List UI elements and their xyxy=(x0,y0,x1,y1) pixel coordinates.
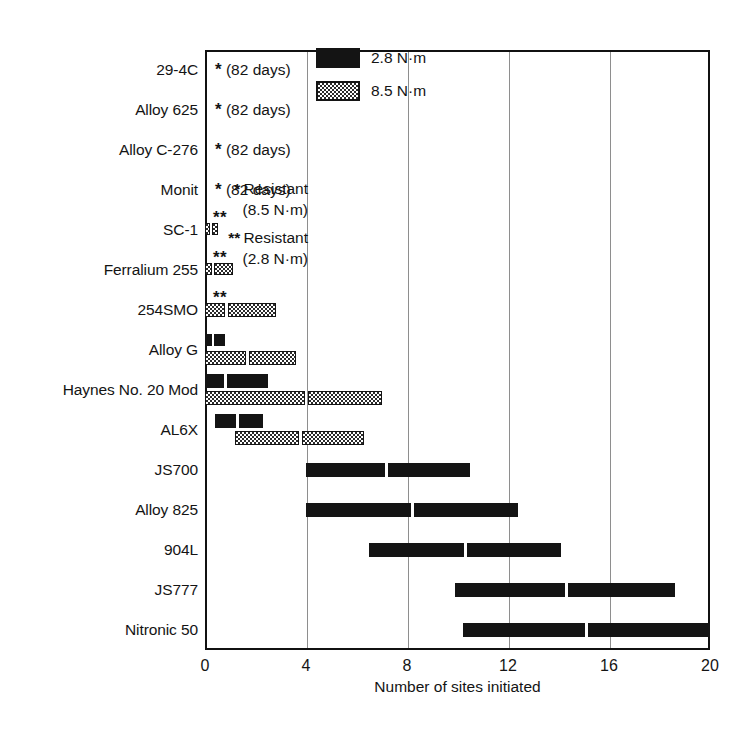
y-axis-label: Alloy 625 xyxy=(0,102,198,118)
legend-swatch-stippled xyxy=(316,81,360,101)
bar-segment-upper xyxy=(414,503,519,517)
row-note-exposure: * (82 days) xyxy=(215,102,291,118)
chart-root: 29-4CAlloy 625Alloy C-276MonitSC-1Ferral… xyxy=(0,0,744,735)
y-axis-label: Alloy 825 xyxy=(0,502,198,518)
legend-item: 8.5 N·m xyxy=(316,81,426,101)
y-axis-label: Alloy G xyxy=(0,342,198,358)
legend-swatch-solid-black xyxy=(316,48,360,68)
bars-layer: * (82 days)* (82 days)* (82 days)* (82 d… xyxy=(205,50,710,650)
bar-segment-upper xyxy=(227,374,268,388)
resistant-star-icon: * xyxy=(234,178,240,199)
x-axis-title: Number of sites initiated xyxy=(205,678,710,696)
bar-segment-lower xyxy=(205,351,246,365)
bar-segment-lower xyxy=(205,374,224,388)
row-note-star: ** xyxy=(213,289,227,306)
y-axis-label: 904L xyxy=(0,542,198,558)
y-axis-category-labels: 29-4CAlloy 625Alloy C-276MonitSC-1Ferral… xyxy=(0,50,198,650)
bar-segment-upper xyxy=(302,431,364,445)
legend-label: 8.5 N·m xyxy=(371,82,426,100)
x-axis-tick-label: 8 xyxy=(403,658,412,674)
y-axis-label: Haynes No. 20 Mod xyxy=(0,382,198,398)
legend-item: 2.8 N·m xyxy=(316,48,426,68)
bar-segment-upper xyxy=(388,463,470,477)
y-axis-label: JS700 xyxy=(0,462,198,478)
x-axis-tick-label: 4 xyxy=(302,658,311,674)
x-axis-tick-label: 20 xyxy=(701,658,719,674)
y-axis-label: Nitronic 50 xyxy=(0,622,198,638)
resistant-key: *Resistant(8.5 N·m)**Resistant(2.8 N·m) xyxy=(118,178,308,276)
legend-label: 2.8 N·m xyxy=(371,49,426,67)
y-axis-label: 29-4C xyxy=(0,62,198,78)
chart-legend: 2.8 N·m8.5 N·m xyxy=(316,48,426,114)
bar-segment-lower xyxy=(205,334,212,346)
resistant-key-entry: **Resistant(2.8 N·m) xyxy=(118,227,308,269)
bar-segment-upper xyxy=(467,543,561,557)
row-note-exposure: * (82 days) xyxy=(215,142,291,158)
bar-segment-lower xyxy=(306,463,385,477)
bar-segment-upper xyxy=(214,334,226,346)
x-axis-ticks: 048121620 xyxy=(205,650,710,676)
resistant-star-icon: ** xyxy=(228,227,240,248)
resistant-key-entry: *Resistant(8.5 N·m) xyxy=(118,178,308,220)
y-axis-label: JS777 xyxy=(0,582,198,598)
y-axis-label: AL6X xyxy=(0,422,198,438)
y-axis-label: Alloy C-276 xyxy=(0,142,198,158)
bar-segment-lower xyxy=(235,431,299,445)
x-axis-tick-label: 16 xyxy=(600,658,618,674)
bar-segment-lower xyxy=(455,583,565,597)
bar-segment-lower xyxy=(306,503,411,517)
bar-segment-upper xyxy=(239,414,263,428)
x-axis-tick-label: 0 xyxy=(201,658,210,674)
bar-segment-upper xyxy=(588,623,710,637)
bar-segment-lower xyxy=(463,623,585,637)
y-axis-label: 254SMO xyxy=(0,302,198,318)
bar-segment-upper xyxy=(308,391,382,405)
bar-segment-upper xyxy=(568,583,675,597)
bar-segment-lower xyxy=(205,391,305,405)
row-note-exposure: * (82 days) xyxy=(215,62,291,78)
bar-segment-lower xyxy=(215,414,236,428)
x-axis-tick-label: 12 xyxy=(499,658,517,674)
bar-segment-lower xyxy=(369,543,463,557)
bar-segment-upper xyxy=(228,303,276,317)
bar-segment-upper xyxy=(249,351,295,365)
